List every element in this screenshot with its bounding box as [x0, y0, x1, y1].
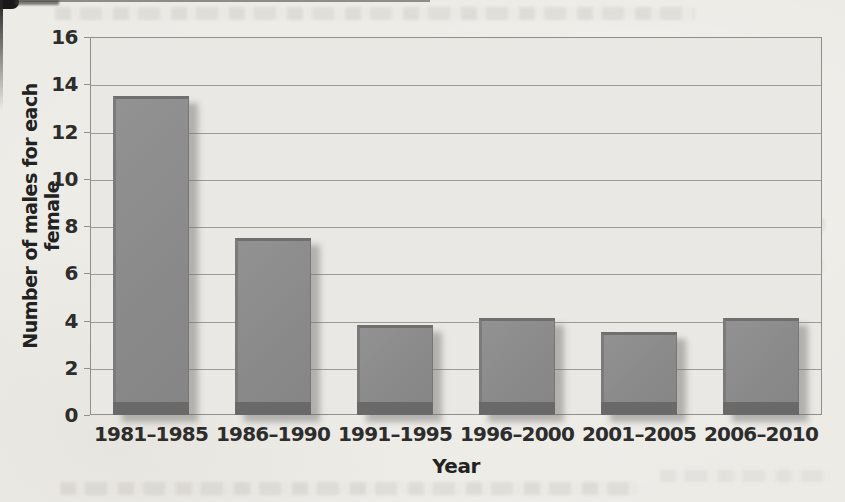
scan-smudge-top-edge: [0, 0, 430, 2]
scan-smudge-left-edge: [0, 0, 3, 110]
y-tick-mark-12: [84, 132, 90, 133]
print-bleedthrough-bottom-band: [60, 482, 640, 495]
y-tick-mark-6: [84, 273, 90, 274]
gridline-y-10: [91, 180, 821, 181]
bar-1981-1985: [113, 96, 189, 415]
y-tick-mark-8: [84, 226, 90, 227]
scan-smudge-top: [15, 0, 59, 5]
x-tick-label-1986-1990: 1986–1990: [212, 422, 334, 446]
y-tick-mark-2: [84, 368, 90, 369]
gridline-y-8: [91, 227, 821, 228]
gridline-y-6: [91, 274, 821, 275]
gridline-y-12: [91, 133, 821, 134]
y-tick-label-16: 16: [38, 26, 78, 48]
bar-base-band: [723, 402, 799, 415]
bar-base-band: [601, 402, 677, 415]
bar-2001-2005: [601, 332, 677, 415]
bar-base-band: [357, 402, 433, 415]
bar-base-band: [479, 402, 555, 415]
y-tick-mark-10: [84, 179, 90, 180]
y-tick-mark-0: [84, 415, 90, 416]
scan-smudge-corner: [0, 0, 19, 9]
x-tick-label-2001-2005: 2001–2005: [578, 422, 700, 446]
bar-base-band: [113, 402, 189, 415]
bar-1986-1990: [235, 238, 311, 415]
textbook-page-photo: 0246810121416 1981–19851986–19901991–199…: [0, 0, 845, 502]
y-axis-title: Number of males for each female: [19, 56, 45, 376]
x-tick-label-2006-2010: 2006–2010: [700, 422, 822, 446]
bar-base-band: [235, 402, 311, 415]
y-tick-mark-16: [84, 37, 90, 38]
x-tick-label-1991-1995: 1991–1995: [334, 422, 456, 446]
y-tick-label-0: 0: [38, 404, 78, 426]
y-tick-mark-4: [84, 321, 90, 322]
plot-area: [90, 37, 822, 415]
gridline-y-2: [91, 369, 821, 370]
y-tick-mark-14: [84, 84, 90, 85]
gridline-y-14: [91, 85, 821, 86]
bar-2006-2010: [723, 318, 799, 415]
bar-1991-1995: [357, 325, 433, 415]
print-bleedthrough-top-band: [55, 7, 695, 20]
gridline-y-4: [91, 322, 821, 323]
x-axis-title: Year: [90, 454, 822, 478]
bar-1996-2000: [479, 318, 555, 415]
x-tick-label-1981-1985: 1981–1985: [90, 422, 212, 446]
x-tick-label-1996-2000: 1996–2000: [456, 422, 578, 446]
